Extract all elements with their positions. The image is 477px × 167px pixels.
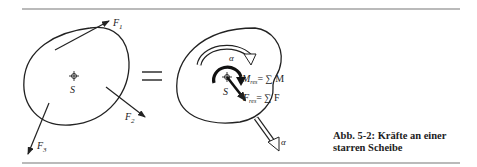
force-label-f3: F3 (36, 140, 47, 154)
left-rigid-body: S F1 F2 F3 (24, 17, 145, 154)
figure-caption: Abb. 5-2: Kräfte an einer starren Scheib… (333, 130, 446, 154)
alpha-moment-arrow (199, 47, 256, 65)
centroid-label: S (70, 84, 75, 95)
moment-equation: Mres= ∑ M (241, 73, 284, 85)
equals-sign (142, 72, 162, 80)
right-rigid-body: α S Mres= ∑ M Fres= ∑ F α (177, 28, 286, 151)
caption-line-2: starren Scheibe (333, 142, 446, 154)
force-arrow-f1 (55, 21, 109, 50)
alpha-acceleration-arrow (256, 118, 279, 151)
force-label-f2: F2 (124, 111, 135, 125)
alpha-label-top: α (229, 53, 234, 63)
force-label-f1: F1 (112, 17, 123, 31)
centroid-icon (69, 71, 79, 81)
alpha-label-bottom: α (281, 137, 286, 147)
centroid-label: S (223, 86, 228, 97)
caption-line-1: Abb. 5-2: Kräfte an einer (333, 130, 446, 142)
force-equation: Fres= ∑ F (242, 92, 280, 104)
